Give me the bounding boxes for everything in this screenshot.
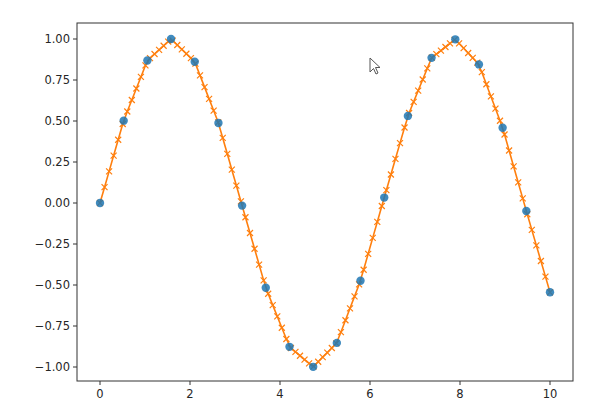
data-point-marker (167, 35, 175, 43)
plot-frame (77, 23, 573, 381)
y-tick-label: 0.50 (44, 114, 70, 128)
data-point-marker (380, 193, 388, 201)
data-point-marker (475, 60, 483, 68)
data-point-marker (451, 35, 459, 43)
y-tick-label: 0.00 (44, 196, 70, 210)
y-tick-label: −0.25 (35, 237, 70, 251)
mouse-cursor-icon (369, 57, 383, 77)
data-point-marker (333, 339, 341, 347)
y-tick-label: −0.75 (35, 319, 70, 333)
x-tick-label: 8 (456, 387, 463, 401)
data-point-marker (143, 56, 151, 64)
data-point-marker (96, 199, 104, 207)
x-tick-label: 10 (543, 387, 558, 401)
y-tick-label: 0.25 (44, 155, 70, 169)
data-point-marker (214, 119, 222, 127)
data-point-marker (285, 343, 293, 351)
data-point-marker (522, 207, 530, 215)
data-point-marker (498, 124, 506, 132)
data-point-marker (238, 201, 246, 209)
data-point-marker (262, 284, 270, 292)
data-point-marker (546, 288, 554, 296)
x-tick-label: 4 (276, 387, 283, 401)
data-point-marker (356, 277, 364, 285)
data-point-marker (191, 58, 199, 66)
data-point-marker (404, 112, 412, 120)
y-tick-label: −0.50 (35, 278, 70, 292)
x-tick-label: 6 (366, 387, 373, 401)
y-tick-label: −1.00 (35, 360, 70, 374)
sine-interpolation-chart: 02468101.000.750.500.250.00−0.25−0.50−0.… (0, 0, 593, 418)
y-tick-label: 0.75 (44, 73, 70, 87)
x-tick-label: 2 (186, 387, 193, 401)
data-point-marker (119, 116, 127, 124)
y-tick-label: 1.00 (44, 32, 70, 46)
x-tick-label: 0 (96, 387, 103, 401)
data-point-marker (309, 363, 317, 371)
data-point-marker (427, 54, 435, 62)
plot-axes (77, 23, 573, 381)
